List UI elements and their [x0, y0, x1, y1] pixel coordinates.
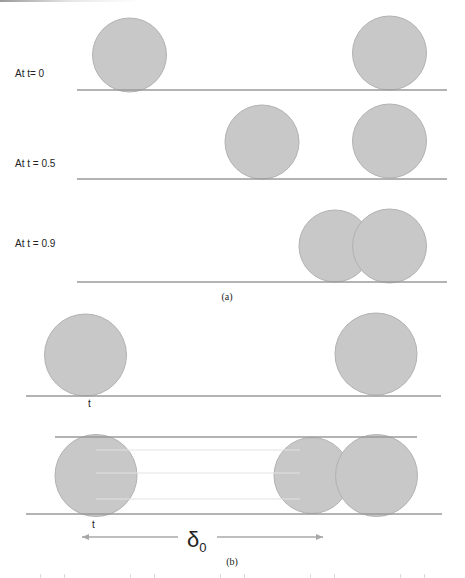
delta-subscript: 0 [199, 540, 206, 555]
caption-b: (b) [226, 556, 238, 567]
particle [353, 104, 427, 178]
panel-b [26, 313, 442, 537]
particle [45, 314, 127, 396]
lower-configuration [26, 435, 442, 517]
row-label-t05: At t = 0.5 [15, 158, 55, 169]
caption-a: (a) [221, 291, 232, 302]
particle [335, 313, 417, 395]
row-label-t0: At t= 0 [15, 68, 44, 79]
time-row [77, 209, 447, 283]
particle [353, 16, 427, 90]
row-label-t09: At t = 0.9 [15, 238, 55, 249]
particle-approach-figure: At t= 0 At t = 0.5 At t = 0.9 (a) t t δ0… [0, 0, 465, 578]
delta-symbol: δ [187, 527, 199, 552]
point-label-lower: t [92, 519, 95, 530]
particle [93, 18, 167, 92]
upper-configuration [26, 313, 441, 396]
particle [336, 435, 418, 517]
particle [225, 105, 299, 179]
delta-zero-label: δ0 [187, 527, 206, 555]
particle [353, 209, 427, 283]
diagram-canvas [0, 0, 465, 578]
time-row [77, 104, 447, 179]
point-label-upper: t [88, 398, 91, 409]
time-row [77, 16, 447, 92]
clipped-body-text [0, 574, 465, 578]
panel-a [77, 16, 447, 283]
particle [55, 435, 137, 517]
